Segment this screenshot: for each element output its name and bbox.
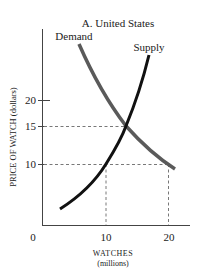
chart-title: A. United States: [82, 17, 154, 29]
supply-demand-chart: A. United States 20 15 10 0 10 20 Demand…: [0, 0, 200, 279]
x-axis-label: WATCHES: [93, 249, 133, 258]
demand-curve: [79, 44, 175, 169]
x-tick-label-0: 0: [30, 231, 36, 243]
supply-curve: [60, 55, 149, 209]
x-tick-label-10: 10: [101, 231, 113, 243]
y-tick-label-20: 20: [25, 94, 37, 106]
y-tick-label-10: 10: [25, 158, 37, 170]
y-tick-label-15: 15: [25, 120, 37, 132]
x-axis-sublabel: (millions): [97, 259, 129, 268]
x-tick-label-20: 20: [164, 231, 176, 243]
y-axis-label: PRICE OF WATCH (dollars): [8, 87, 18, 186]
supply-label: Supply: [133, 41, 165, 53]
dashed-guides: [44, 127, 169, 226]
demand-label: Demand: [55, 30, 93, 42]
